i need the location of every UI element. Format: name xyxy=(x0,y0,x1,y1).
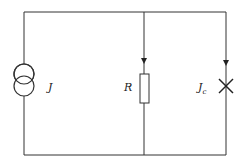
current-source-icon xyxy=(14,64,34,96)
current-arrow-icon xyxy=(223,60,229,66)
junction-label-sub: c xyxy=(202,88,206,96)
resistor-label: R xyxy=(124,82,132,93)
resistor-icon xyxy=(140,74,149,103)
junction-label: Jc xyxy=(198,82,206,96)
circuit-diagram xyxy=(0,0,245,164)
current-arrow-icon xyxy=(141,58,147,64)
source-label: J xyxy=(48,82,52,93)
